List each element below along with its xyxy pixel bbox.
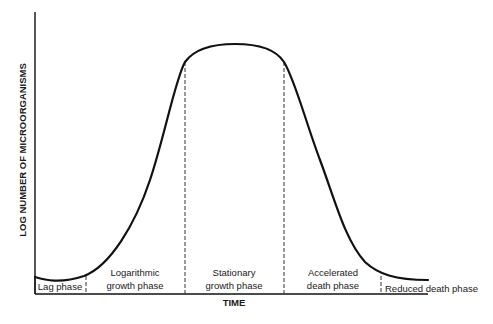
phase-label-stationary-line1: Stationary <box>213 267 256 278</box>
x-axis-label: TIME <box>223 297 246 308</box>
growth-curve <box>35 44 428 281</box>
phase-label-log-line1: Logarithmic <box>110 267 159 278</box>
phase-label-reduced-death: Reduced death phase <box>385 283 478 294</box>
phase-label-log-line2: growth phase <box>106 280 163 291</box>
phase-label-stationary-line2: growth phase <box>205 280 262 291</box>
phase-label-accelerated-death-line1: Accelerated <box>308 267 358 278</box>
phase-label-lag: Lag phase <box>38 281 82 292</box>
phase-label-accelerated-death-line2: death phase <box>307 280 359 291</box>
y-axis-label: LOG NUMBER OF MICROORGANISMS <box>17 63 28 237</box>
growth-curve-diagram: LOG NUMBER OF MICROORGANISMS Lag phase L… <box>0 0 493 324</box>
